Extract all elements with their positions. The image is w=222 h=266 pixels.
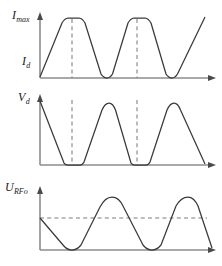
panel-vd-x-axis-arrow — [208, 162, 216, 168]
label-v-d-base: V — [18, 90, 25, 104]
waveform-svg — [0, 0, 222, 266]
label-v-d-sub: d — [26, 97, 30, 106]
label-i-max-sub: max — [16, 15, 29, 24]
panel-id-x-axis-arrow — [208, 75, 216, 81]
panel-vd — [37, 94, 216, 168]
label-u-rfo-base: U — [5, 180, 14, 194]
panel-urfo-y-axis-arrow — [37, 186, 43, 194]
panel-id — [37, 12, 216, 81]
panel-urfo-waveform — [40, 197, 212, 250]
label-i-d-sub: d — [26, 61, 30, 70]
panel-id-y-axis-arrow — [37, 12, 43, 20]
panel-urfo — [37, 186, 216, 253]
panel-id-waveform — [40, 17, 205, 78]
waveform-figure: Imax Id Vd URFo — [0, 0, 222, 266]
label-i-d: Id — [22, 52, 30, 68]
label-u-rfo-sub: RFo — [14, 187, 28, 196]
panel-vd-waveform — [40, 101, 205, 165]
label-i-max: Imax — [12, 6, 29, 22]
panel-vd-y-axis-arrow — [37, 94, 43, 102]
label-v-d: Vd — [18, 88, 29, 104]
label-u-rfo: URFo — [5, 178, 27, 194]
